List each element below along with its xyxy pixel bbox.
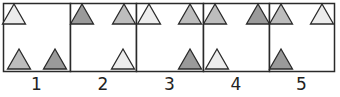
panel-label-4: 4	[221, 74, 251, 94]
triangle-sequence-figure: 12345	[0, 0, 340, 97]
panel-label-2: 2	[88, 74, 118, 94]
panel-label-1: 1	[22, 74, 52, 94]
panel-label-5: 5	[287, 74, 317, 94]
panel-label-3: 3	[155, 74, 185, 94]
